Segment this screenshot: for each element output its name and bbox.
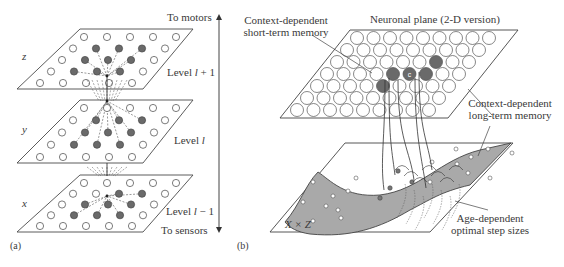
inactive-neuron	[47, 68, 54, 75]
to-sensors-label: To sensors	[161, 224, 208, 236]
inactive-neuron	[364, 56, 377, 69]
inactive-neuron	[36, 222, 43, 229]
active-neuron	[387, 68, 400, 81]
inactive-neuron	[413, 56, 426, 69]
panel-b-neuronal-model: c	[270, 30, 518, 235]
axis-label-y: y	[22, 123, 27, 135]
inactive-neuron	[400, 32, 413, 45]
inactive-neuron	[126, 104, 133, 111]
inactive-neuron	[103, 179, 110, 186]
active-neuron	[127, 201, 134, 208]
active-neuron	[115, 190, 122, 197]
inactive-neuron	[36, 79, 43, 86]
inactive-neuron	[80, 179, 87, 186]
inactive-neuron	[149, 33, 156, 40]
active-neuron	[93, 141, 100, 148]
inactive-neuron	[47, 212, 54, 219]
inactive-neuron	[82, 153, 89, 160]
inactive-neuron	[301, 92, 314, 105]
inactive-neuron	[347, 56, 360, 69]
level-suffix: + 1	[198, 66, 215, 78]
inactive-neuron	[327, 80, 340, 93]
inactive-neuron	[453, 68, 466, 81]
inactive-neuron	[161, 117, 168, 124]
active-neuron	[377, 80, 390, 93]
active-neuron	[92, 45, 99, 52]
inactive-neuron	[139, 212, 146, 219]
inactive-neuron	[128, 222, 135, 229]
active-neuron	[127, 129, 134, 136]
long-term-line2: long-term memory	[460, 109, 560, 121]
inactive-neuron	[80, 104, 87, 111]
active-neuron	[138, 117, 145, 124]
level-label-bottom: Level l − 1	[166, 205, 214, 217]
inactive-neuron	[450, 32, 463, 45]
inactive-neuron	[105, 222, 112, 229]
active-neuron	[104, 201, 111, 208]
inactive-neuron	[443, 80, 456, 93]
inactive-neuron	[390, 44, 403, 57]
active-neuron	[81, 56, 88, 63]
inactive-neuron	[331, 56, 344, 69]
inactive-neuron	[426, 80, 439, 93]
active-neuron	[70, 141, 77, 148]
inactive-neuron	[390, 104, 403, 117]
inactive-neuron	[483, 32, 496, 45]
active-neuron	[93, 68, 100, 75]
short-term-label: Context-dependent short-term memory	[238, 14, 334, 38]
step-size-label: Age-dependent optimal step sizes	[440, 212, 540, 236]
step-size-line2: optimal step sizes	[440, 224, 540, 236]
level-label-middle: Level l	[174, 134, 205, 146]
active-neuron	[420, 68, 433, 81]
inactive-neuron	[92, 190, 99, 197]
active-neuron	[104, 129, 111, 136]
inactive-neuron	[69, 190, 76, 197]
inactive-neuron	[58, 129, 65, 136]
axis-label-z: z	[22, 50, 26, 62]
inactive-neuron	[291, 104, 304, 117]
inactive-neuron	[351, 32, 364, 45]
active-neuron	[127, 56, 134, 63]
inactive-neuron	[367, 32, 380, 45]
inactive-neuron	[344, 80, 357, 93]
inactive-neuron	[400, 92, 413, 105]
inactive-neuron	[407, 44, 420, 57]
active-neuron	[116, 141, 123, 148]
inactive-neuron	[417, 32, 430, 45]
inactive-neuron	[103, 104, 110, 111]
inactive-neuron	[466, 32, 479, 45]
plane-title: Neuronal plane (2-D version)	[370, 13, 500, 25]
step-size-line1: Age-dependent	[440, 212, 540, 224]
inactive-neuron	[103, 33, 110, 40]
inactive-neuron	[423, 44, 436, 57]
inactive-neuron	[416, 92, 429, 105]
short-term-line2: short-term memory	[238, 26, 334, 38]
inactive-neuron	[440, 44, 453, 57]
inactive-neuron	[149, 104, 156, 111]
inactive-neuron	[59, 222, 66, 229]
active-neuron	[116, 212, 123, 219]
inactive-neuron	[463, 56, 476, 69]
active-neuron	[430, 56, 443, 69]
inactive-neuron	[350, 92, 363, 105]
inactive-neuron	[161, 190, 168, 197]
level-prefix: Level	[174, 134, 202, 146]
inactive-neuron	[128, 79, 135, 86]
inactive-neuron	[105, 153, 112, 160]
inactive-neuron	[397, 56, 410, 69]
active-neuron	[81, 201, 88, 208]
inactive-neuron	[172, 33, 179, 40]
active-neuron	[115, 45, 122, 52]
inactive-neuron	[384, 32, 397, 45]
inactive-neuron	[324, 104, 337, 117]
inactive-neuron	[433, 32, 446, 45]
inactive-neuron	[161, 45, 168, 52]
inactive-neuron	[58, 201, 65, 208]
active-neuron	[116, 68, 123, 75]
inactive-neuron	[357, 104, 370, 117]
inactive-neuron	[59, 153, 66, 160]
inactive-neuron	[456, 44, 469, 57]
svg-text:c: c	[408, 71, 412, 78]
inactive-neuron	[423, 104, 436, 117]
active-neuron	[92, 117, 99, 124]
